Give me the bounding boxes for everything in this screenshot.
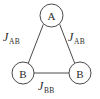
node-label-a: A — [48, 10, 56, 22]
edge-a-b-left — [28, 25, 43, 64]
edge-label-j-ab-right: JAB — [68, 31, 85, 43]
node-label-b-left: B — [19, 68, 26, 80]
edge-label-subscript: AB — [74, 37, 85, 46]
edge-label-symbol: J — [3, 30, 9, 44]
edge-label-symbol: J — [38, 79, 44, 93]
edge-label-subscript: BB — [44, 86, 55, 95]
edge-label-j-ab-left: JAB — [3, 31, 20, 43]
diagram-canvas: A B B JAB JAB JBB — [0, 0, 100, 99]
edge-label-j-bb-bottom: JBB — [38, 80, 54, 92]
edge-label-subscript: AB — [9, 37, 20, 46]
node-label-b-right: B — [76, 68, 83, 80]
edge-label-symbol: J — [68, 30, 74, 44]
